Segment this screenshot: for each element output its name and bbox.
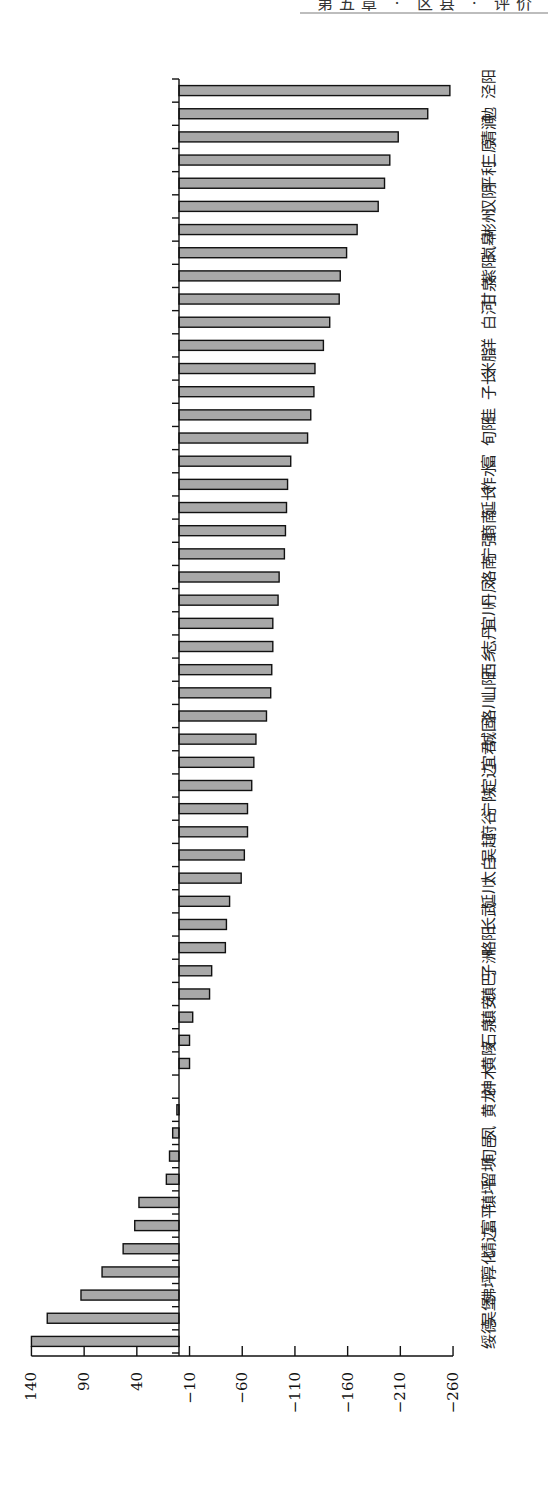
bars-group xyxy=(31,86,449,1347)
bar xyxy=(179,294,339,304)
bar xyxy=(179,225,357,235)
bar xyxy=(179,132,398,142)
bar xyxy=(179,572,279,582)
bar xyxy=(179,433,308,443)
bar xyxy=(179,109,428,119)
svg-text:洋: 洋 xyxy=(480,338,498,353)
bar xyxy=(135,1221,179,1231)
bar xyxy=(179,595,278,605)
bar xyxy=(173,1128,179,1138)
bar xyxy=(179,479,288,489)
tick-label: 140 xyxy=(22,1372,40,1401)
bar xyxy=(179,827,248,837)
bar xyxy=(179,387,314,397)
bar xyxy=(179,780,252,790)
bar xyxy=(102,1267,179,1277)
bar xyxy=(179,155,390,165)
bar xyxy=(179,248,347,258)
bar xyxy=(179,364,315,374)
category-label: 勉 xyxy=(480,107,498,122)
bar xyxy=(179,873,241,883)
bar xyxy=(179,804,248,814)
category-label: 佳 xyxy=(480,408,498,423)
bar xyxy=(179,711,266,721)
bar xyxy=(179,86,450,96)
svg-text:凤: 凤 xyxy=(480,1126,498,1141)
svg-text:泾阳: 泾阳 xyxy=(480,69,498,99)
svg-text:勉: 勉 xyxy=(480,107,498,122)
bar xyxy=(139,1197,179,1207)
bar xyxy=(179,271,340,281)
bar xyxy=(31,1336,179,1346)
tick-label: 90 xyxy=(75,1372,93,1391)
bar xyxy=(179,688,271,698)
bar xyxy=(179,410,311,420)
bar xyxy=(179,665,272,675)
bar-chart: 1409040−10−60−110−160−210−260 绥德吴堡佛坪淳化靖边… xyxy=(0,0,548,1488)
category-label: 凤 xyxy=(480,1126,498,1141)
bar xyxy=(166,1174,179,1184)
bar xyxy=(47,1313,179,1323)
bar xyxy=(179,178,385,188)
tick-label: −110 xyxy=(286,1372,304,1413)
category-label: 泾阳 xyxy=(480,69,498,99)
svg-text:富: 富 xyxy=(480,454,498,469)
bar xyxy=(179,896,230,906)
bar xyxy=(179,850,244,860)
bar xyxy=(179,919,226,929)
bar xyxy=(179,1058,190,1068)
bar xyxy=(179,1012,193,1022)
category-label: 洋 xyxy=(480,338,498,353)
bar xyxy=(179,757,254,767)
bar xyxy=(179,503,287,513)
bar xyxy=(179,966,212,976)
tick-label: −10 xyxy=(181,1372,199,1404)
bar xyxy=(170,1151,179,1161)
bar xyxy=(179,526,285,536)
category-labels: 绥德吴堡佛坪淳化靖边富平镇坪留坝旬邑凤黄龙神木黄陵石泉镇安镇巴子洲略阳长武延川太… xyxy=(480,69,498,1350)
tick-label: 40 xyxy=(128,1372,146,1391)
svg-text:佳: 佳 xyxy=(480,408,498,423)
tick-label: −60 xyxy=(233,1372,251,1404)
bar xyxy=(179,642,273,652)
tick-label: −160 xyxy=(339,1372,357,1413)
bar xyxy=(123,1244,179,1254)
bar xyxy=(179,1035,190,1045)
bar xyxy=(81,1290,179,1300)
bar xyxy=(179,201,378,211)
bar xyxy=(179,317,330,327)
bar xyxy=(179,340,323,350)
bar xyxy=(179,618,273,628)
bar xyxy=(179,456,291,466)
tick-label: −260 xyxy=(444,1372,462,1413)
bar xyxy=(179,989,210,999)
tick-label: −210 xyxy=(391,1372,409,1413)
bar xyxy=(179,943,225,953)
bar xyxy=(179,734,256,744)
bar xyxy=(179,549,284,559)
category-label: 富 xyxy=(480,454,498,469)
